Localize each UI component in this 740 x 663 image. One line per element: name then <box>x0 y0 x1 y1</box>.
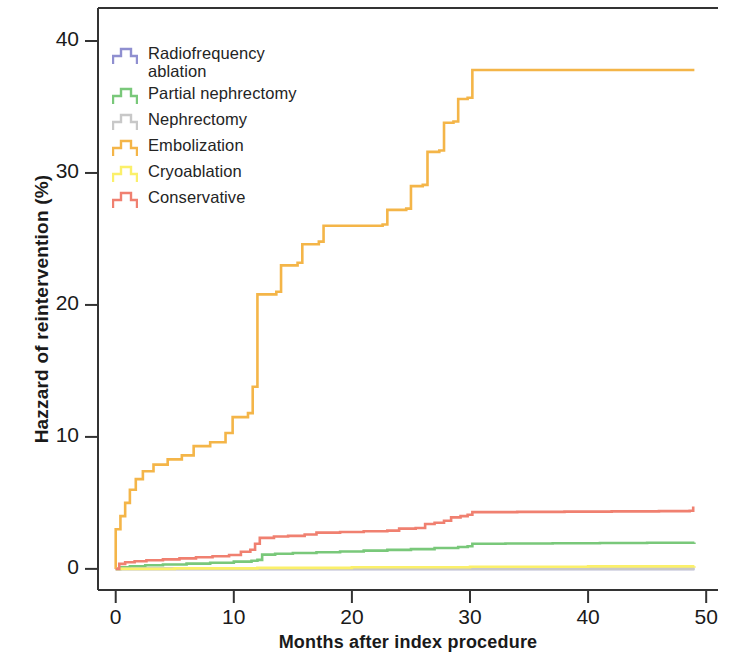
legend-swatch-icon <box>112 47 138 65</box>
legend-swatch-icon <box>112 113 138 131</box>
legend-step-glyph <box>113 167 137 182</box>
legend-swatch-icon <box>112 165 138 183</box>
legend-swatch-icon <box>112 87 138 105</box>
legend-step-glyph <box>113 49 137 64</box>
series-line <box>116 542 695 568</box>
legend-item[interactable]: Embolization <box>112 136 362 159</box>
legend-label: Radiofrequency ablation <box>148 44 265 81</box>
legend-label: Nephrectomy <box>148 110 247 128</box>
plot-area <box>0 0 740 663</box>
legend-swatch-icon <box>112 191 138 209</box>
legend-label: Cryoablation <box>148 162 242 180</box>
chart-legend: Radiofrequency ablationPartial nephrecto… <box>112 44 362 214</box>
legend-step-glyph <box>113 89 137 104</box>
legend-item[interactable]: Nephrectomy <box>112 110 362 133</box>
legend-label: Conservative <box>148 188 246 206</box>
legend-item[interactable]: Radiofrequency ablation <box>112 44 362 81</box>
series-line <box>116 507 693 569</box>
legend-swatch-icon <box>112 139 138 157</box>
legend-label: Partial nephrectomy <box>148 84 297 102</box>
legend-item[interactable]: Conservative <box>112 188 362 211</box>
legend-step-glyph <box>113 193 137 208</box>
legend-item[interactable]: Cryoablation <box>112 162 362 185</box>
legend-step-glyph <box>113 115 137 130</box>
legend-item[interactable]: Partial nephrectomy <box>112 84 362 107</box>
legend-step-glyph <box>113 141 137 156</box>
legend-label: Embolization <box>148 136 244 154</box>
chart-figure: Hazzard of reintervention (%) Months aft… <box>0 0 740 663</box>
